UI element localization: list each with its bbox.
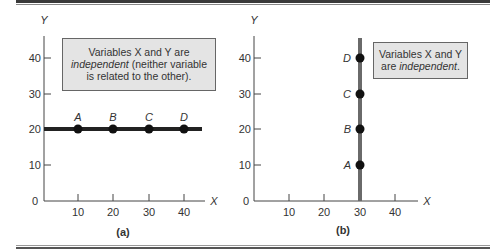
y-tick-20: 20 xyxy=(29,123,41,135)
point-label-b: B xyxy=(109,111,116,123)
point-label-d: D xyxy=(343,52,351,64)
annotation-box-a: Variables X and Y are independent (neith… xyxy=(62,38,216,91)
point-c xyxy=(145,125,154,134)
x-tick-30: 30 xyxy=(143,206,155,218)
y-axis-label: Y xyxy=(40,14,48,26)
point-label-b: B xyxy=(344,123,351,135)
x-tick-20: 20 xyxy=(107,206,119,218)
point-b xyxy=(356,125,365,134)
point-d xyxy=(180,125,189,134)
x-tick-30: 30 xyxy=(354,206,366,218)
y-tick-10: 10 xyxy=(29,159,41,171)
annotation-line-2: are independent. xyxy=(374,60,467,72)
x-axis-label: X xyxy=(422,195,431,207)
x-tick-40: 40 xyxy=(389,206,401,218)
x-tick-20: 20 xyxy=(318,206,330,218)
y-tick-30: 30 xyxy=(29,88,41,100)
annotation-line-2: independent (neither variable xyxy=(63,58,215,70)
bottom-rule-thin xyxy=(16,245,490,246)
y-axis-label: Y xyxy=(250,14,258,26)
panel-label-b: (b) xyxy=(336,224,350,236)
x-axis-label: X xyxy=(209,195,218,207)
point-a xyxy=(74,125,83,134)
annotation-box-b: Variables X and Y are independent. xyxy=(373,42,468,79)
y-tick-10: 10 xyxy=(239,159,251,171)
y-tick-40: 40 xyxy=(239,52,251,64)
y-tick-20: 20 xyxy=(239,123,251,135)
x-tick-10: 10 xyxy=(72,206,84,218)
origin-label: 0 xyxy=(32,195,38,207)
panel-label-a: (a) xyxy=(116,226,130,238)
point-a xyxy=(356,161,365,170)
point-label-c: C xyxy=(343,88,351,100)
annotation-line-1: Variables X and Y xyxy=(374,48,467,60)
point-b xyxy=(109,125,118,134)
x-tick-40: 40 xyxy=(178,206,190,218)
y-tick-40: 40 xyxy=(29,52,41,64)
point-d xyxy=(356,54,365,63)
point-label-a: A xyxy=(73,111,81,123)
y-tick-30: 30 xyxy=(239,88,251,100)
bottom-rule xyxy=(16,247,490,249)
point-label-c: C xyxy=(145,111,153,123)
point-label-a: A xyxy=(343,159,351,171)
annotation-line-3: is related to the other). xyxy=(63,70,215,82)
annotation-line-1: Variables X and Y are xyxy=(63,46,215,58)
origin-label: 0 xyxy=(243,195,249,207)
point-label-d: D xyxy=(180,111,188,123)
x-tick-10: 10 xyxy=(283,206,295,218)
point-c xyxy=(356,90,365,99)
